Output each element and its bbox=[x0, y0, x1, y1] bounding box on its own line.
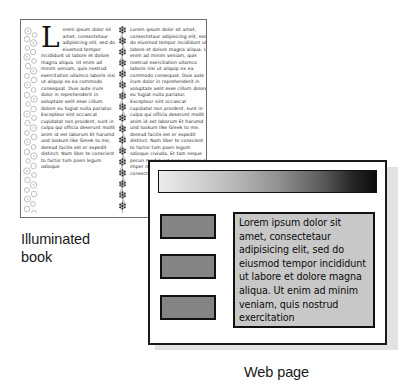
nav-block-2[interactable] bbox=[160, 254, 216, 279]
web-content-text: Lorem ipsum dolor sit amet, consectetaur… bbox=[239, 216, 370, 325]
drop-cap: L bbox=[41, 27, 60, 47]
caption-web-page: Web page bbox=[244, 364, 309, 382]
vine-divider-icon bbox=[118, 26, 127, 213]
nav-block-1[interactable] bbox=[160, 214, 216, 239]
web-page-panel: Lorem ipsum dolor sit amet, consectetaur… bbox=[148, 160, 387, 345]
web-banner bbox=[158, 170, 377, 193]
book-left-column: L orem ipsum dolor sit amet, consectetau… bbox=[40, 26, 118, 213]
book-right-column-text: Lorem ipsum dolor sit amet, consectetaur… bbox=[130, 27, 207, 178]
caption-illuminated-book: Illuminatedbook bbox=[21, 231, 161, 266]
illuminated-border-icon bbox=[23, 26, 40, 213]
web-content-box: Lorem ipsum dolor sit amet, consectetaur… bbox=[233, 212, 375, 328]
nav-block-3[interactable] bbox=[160, 295, 216, 320]
